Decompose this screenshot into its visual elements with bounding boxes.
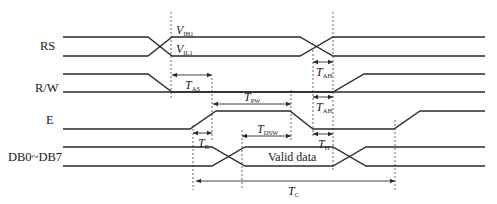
- signal-label-e: E: [46, 113, 54, 127]
- tas-label: TAS: [185, 78, 200, 92]
- rw-waveform: [63, 74, 485, 92]
- tah-rw-label: TAH: [316, 100, 332, 114]
- tah-rs-label: TAH: [316, 65, 332, 79]
- tr-label: TR: [198, 136, 210, 150]
- tc-label: TC: [288, 184, 299, 198]
- vil-label: VIL1: [176, 42, 193, 56]
- e-waveform: [63, 111, 485, 129]
- timing-diagram: RS R/W E DB0~DB7 VIH1 VIL1 TAH TAS TAH T…: [0, 0, 497, 204]
- tdsw-label: TDSW: [257, 122, 279, 136]
- signal-label-db: DB0~DB7: [8, 150, 62, 164]
- valid-data-label: Valid data: [268, 150, 317, 164]
- rs-waveform: [63, 37, 485, 56]
- vih-label: VIH1: [176, 23, 193, 37]
- signal-label-rw: R/W: [35, 81, 59, 95]
- th-label: TH: [318, 137, 330, 151]
- signal-label-rs: RS: [40, 39, 55, 53]
